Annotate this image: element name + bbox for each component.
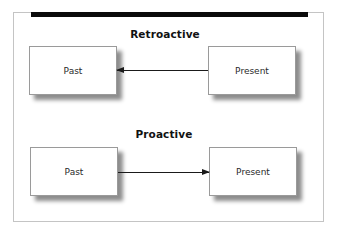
arrowhead-right-icon	[202, 169, 210, 175]
header-rule	[31, 12, 308, 17]
retroactive-arrow	[117, 70, 208, 71]
retroactive-present-box: Present	[208, 46, 296, 95]
proactive-title: Proactive	[104, 128, 224, 140]
retroactive-past-label: Past	[64, 66, 83, 76]
arrowhead-left-icon	[116, 67, 124, 73]
proactive-present-label: Present	[236, 167, 270, 177]
proactive-arrow	[118, 172, 209, 173]
retroactive-past-box: Past	[29, 46, 117, 95]
retroactive-title: Retroactive	[105, 28, 225, 40]
proactive-past-box: Past	[30, 147, 118, 196]
retroactive-present-label: Present	[235, 66, 269, 76]
proactive-present-box: Present	[209, 147, 297, 196]
proactive-past-label: Past	[65, 167, 84, 177]
